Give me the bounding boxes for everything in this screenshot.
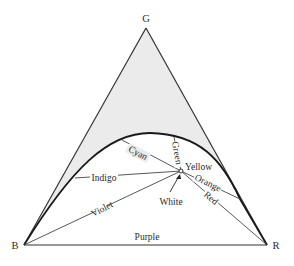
- label-green: Green: [170, 141, 184, 166]
- shaded-gamut-region: [24, 28, 267, 245]
- chromaticity-triangle-diagram: G B R Cyan Green Yellow Indigo Violet Or…: [0, 0, 294, 266]
- vertex-label-b: B: [11, 240, 18, 251]
- line-red: [181, 171, 267, 245]
- label-indigo: Indigo: [92, 173, 117, 183]
- arrowhead-icon: [176, 174, 181, 179]
- label-purple: Purple: [135, 232, 160, 242]
- vertex-label-g: G: [142, 13, 150, 24]
- white-point-marker: [179, 169, 183, 173]
- vertex-label-r: R: [272, 240, 279, 251]
- label-yellow: Yellow: [185, 162, 212, 172]
- label-white: White: [159, 197, 182, 207]
